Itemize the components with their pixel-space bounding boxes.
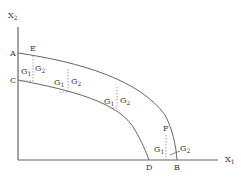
point-b-label: B [174,163,180,172]
g2-label-1: G2 [35,64,45,74]
point-f-label: F [163,124,169,133]
g2-label-4: G2 [180,144,190,154]
g1-label-4: G1 [154,145,164,155]
g1-label-1: G1 [21,67,31,77]
inner-frontier-curve [18,80,149,160]
point-c-label: C [10,76,16,85]
point-e-label: E [30,44,36,53]
g2-label-2: G2 [71,77,81,87]
y-axis-label: X2 [8,11,18,21]
ppf-diagram: X2 X1 A C E F D B G1 G2 G1 G2 G1 G2 G1 G… [0,0,241,185]
x-axis-label: X1 [225,155,235,165]
point-a-label: A [9,49,16,58]
g1-label-2: G1 [54,78,64,88]
point-d-label: D [146,163,152,172]
g2-label-3: G2 [120,96,130,106]
g1-label-3: G1 [104,97,114,107]
g2-arrow [170,151,180,155]
